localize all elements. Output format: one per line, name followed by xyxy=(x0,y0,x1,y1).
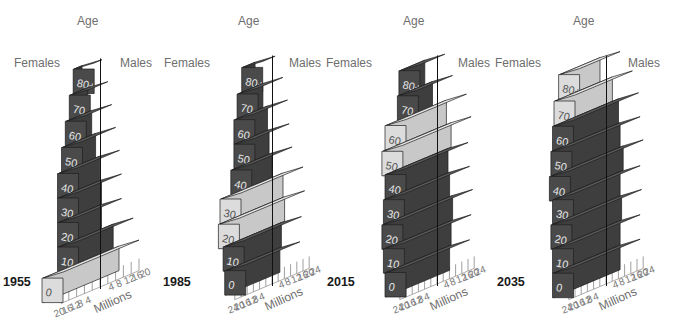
pyramid-panel-1955: AgeFemalesMales19552016128448121620Milli… xyxy=(3,14,152,319)
year-label: 1955 xyxy=(3,275,31,289)
males-label: Males xyxy=(458,56,490,70)
females-label: Females xyxy=(326,56,372,70)
year-label: 2015 xyxy=(327,275,355,289)
males-label: Males xyxy=(628,56,660,70)
x-tick-label: 24 xyxy=(473,263,488,277)
females-label: Females xyxy=(164,56,210,70)
x-tick-label: 24 xyxy=(642,263,657,277)
age-axis-title: Age xyxy=(403,14,425,28)
pyramid-panel-2035: AgeFemalesMales203524201612844812162024M… xyxy=(495,14,660,316)
x-tick-label: 20 xyxy=(138,266,153,280)
age-axis-title: Age xyxy=(238,14,260,28)
pyramid-panel-2015: AgeFemalesMales201524201612844812162024M… xyxy=(326,14,490,316)
females-label: Females xyxy=(14,56,60,70)
age-axis-title: Age xyxy=(573,14,595,28)
year-label: 2035 xyxy=(497,275,525,289)
males-label: Males xyxy=(289,56,321,70)
year-label: 1985 xyxy=(163,275,191,289)
males-label: Males xyxy=(120,56,152,70)
females-label: Females xyxy=(495,56,541,70)
age-axis-title: Age xyxy=(77,14,99,28)
x-tick-label: 24 xyxy=(308,263,323,277)
pyramid-panel-1985: AgeFemalesMales198524201612844812162024M… xyxy=(163,14,323,316)
population-pyramids-figure: AgeFemalesMales19552016128448121620Milli… xyxy=(0,0,678,334)
